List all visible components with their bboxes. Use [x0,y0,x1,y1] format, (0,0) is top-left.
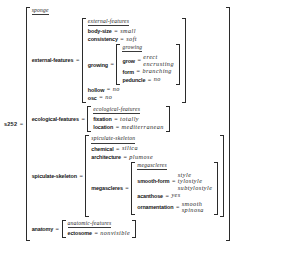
megascleres-body: megascleres smooth-form = style tylostyl… [135,162,214,216]
megascleres-type-label: megascleres [137,163,167,170]
attr-megascleres: megascleres [91,185,123,191]
equals-ornamentation: = [173,204,181,211]
bracket-right [176,44,180,85]
ecological-features-body: ecological-features fixation = totally l… [91,106,166,133]
attr-osc: osc [88,95,97,101]
bracket-right [214,162,218,216]
feature-anatomy: anatomy = anatomic-features ectosome = n… [32,220,225,238]
bracket-right [226,7,230,241]
feature-external-features: external-features = external-features bo… [32,18,225,103]
attr-spiculate-skeleton: spiculate-skeleton [32,173,77,179]
attr-hollow: hollow [88,87,104,93]
equals-ectosome: = [92,230,100,237]
feature-osc: osc = no [88,94,180,101]
value-acanthose: yes [171,192,180,199]
attr-growing: growing [88,62,108,68]
value-ornamentation-disjunction: smooth spinosa [182,201,204,214]
equals-grow: = [135,57,143,64]
value-osc: no [105,94,112,101]
attr-peduncle: peduncle [122,77,145,83]
value-smooth-form-2: subtylostyle [178,185,213,192]
megascleres-matrix: megascleres smooth-form = style tylostyl… [131,162,218,216]
external-features-type-label: external-features [88,19,129,26]
attr-chemical: chemical [91,146,113,152]
equals-smooth-form: = [169,178,177,185]
anatomy-matrix: anatomic-features ectosome = nonvisible [62,220,137,238]
feature-growing: growing = growing grow = [88,44,180,85]
value-smooth-form-disjunction: style tylostyle subtylostyle [178,172,213,192]
attr-ecological-features: ecological-features [32,116,79,122]
equals-consistency: = [118,36,126,43]
anatomy-body: anatomic-features ectosome = nonvisible [66,220,133,238]
bracket-right [182,18,186,103]
spiculate-skeleton-body: spiculate-skeleton chemical = silica arc… [89,135,220,216]
attr-body-size: body-size [88,28,112,34]
feature-megascleres: megascleres = megascleres smooth-form = [91,162,218,216]
value-fixation: totally [120,116,139,123]
feature-form: form = branching [122,68,174,75]
feature-location: location = mediterranean [93,124,164,131]
sponge-matrix: sponge external-features = external-feat… [26,7,231,241]
feature-chemical: chemical = silica [91,145,218,152]
feature-spiculate-skeleton: spiculate-skeleton = spiculate-skeleton … [32,135,225,216]
bracket-right [166,106,170,133]
attr-fixation: fixation [93,116,111,122]
equals-growing: = [108,61,116,68]
equals-chemical: = [114,146,122,153]
external-features-body: external-features body-size = small cons… [86,18,182,103]
attr-ectosome: ectosome [68,230,92,236]
ecological-features-type-label: ecological-features [93,107,140,114]
feature-peduncle: peduncle = no [122,76,174,83]
equals-fixation: = [112,116,120,123]
attr-architecture: architecture [91,154,121,160]
feature-architecture: architecture = plumose [91,154,218,161]
value-body-size: small [120,28,136,35]
spiculate-skeleton-matrix: spiculate-skeleton chemical = silica arc… [85,135,224,216]
equals-form: = [134,68,142,75]
attr-acanthose: acanthose [137,193,163,199]
attr-smooth-form: smooth-form [137,178,169,184]
value-grow-1: encrusting [143,61,174,68]
external-features-matrix: external-features body-size = small cons… [82,18,186,103]
feature-body-size: body-size = small [88,28,180,35]
attr-location: location [93,124,113,130]
feature-hollow: hollow = no [88,86,180,93]
feature-ectosome: ectosome = nonvisible [68,230,131,237]
ecological-features-matrix: ecological-features fixation = totally l… [87,106,170,133]
equals-external-features: = [73,57,81,64]
value-ornamentation-1: spinosa [182,207,204,214]
attr-grow: grow [122,58,134,64]
feature-acanthose: acanthose = yes [137,192,212,199]
avm-root: s252 = sponge external-features = extern… [4,7,230,241]
attr-form: form [122,69,134,75]
value-form: branching [142,68,172,75]
feature-fixation: fixation = totally [93,116,164,123]
anatomy-type-label: anatomic-features [68,221,112,228]
growing-matrix: growing grow = erect encrusting [116,44,180,85]
attr-external-features: external-features [32,57,74,63]
equals-body-size: = [112,28,120,35]
value-hollow: no [113,86,120,93]
growing-type-label: growing [122,45,142,52]
feature-smooth-form: smooth-form = style tylostyle subtylosty… [137,172,212,192]
equals-spiculate-skeleton: = [77,173,85,180]
sponge-matrix-body: sponge external-features = external-feat… [30,7,227,241]
value-peduncle: no [154,76,161,83]
value-chemical: silica [122,145,138,152]
spiculate-skeleton-type-label: spiculate-skeleton [91,136,135,143]
equals-osc: = [97,94,105,101]
feature-consistency: consistency = soft [88,36,180,43]
root-equals-sign: = [17,121,25,127]
value-grow-disjunction: erect encrusting [143,54,174,67]
equals-peduncle: = [145,77,153,84]
sponge-type-label: sponge [32,8,49,15]
value-location: mediterranean [122,124,164,131]
value-architecture: plumose [129,154,153,161]
equals-megascleres: = [123,185,131,192]
equals-anatomy: = [53,226,61,233]
bracket-right [132,220,136,238]
equals-ecological-features: = [79,116,87,123]
attr-anatomy: anatomy [32,226,53,232]
equals-location: = [113,124,121,131]
feature-ecological-features: ecological-features = ecological-feature… [32,106,225,133]
